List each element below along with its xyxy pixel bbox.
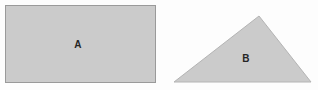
figure-canvas: A B — [0, 0, 318, 90]
shape-triangle-b[interactable] — [174, 16, 311, 82]
shape-triangle-b-label: B — [242, 53, 249, 64]
shapes-figure: A B — [0, 0, 318, 90]
shape-rectangle-a-label: A — [74, 39, 81, 50]
